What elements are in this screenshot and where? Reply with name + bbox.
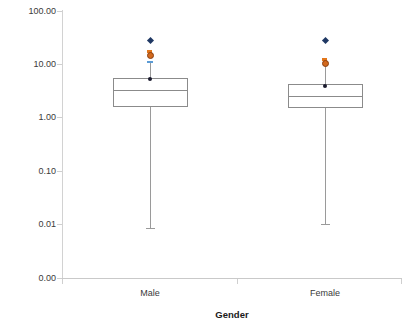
datapoint-p97.5 <box>322 60 329 67</box>
x-axis-title: Gender <box>62 309 402 320</box>
datapoint-p97.5 <box>147 52 154 59</box>
boxplot-chart: µg Cd/kg bodyweight/week 100.0010.001.00… <box>0 0 409 326</box>
datapoint-max-outlier <box>322 37 329 44</box>
median-line <box>288 96 363 97</box>
y-tick-mark <box>57 171 62 172</box>
y-tick-mark <box>57 11 62 12</box>
y-tick-label: 10.00 <box>8 59 56 69</box>
median-line <box>113 90 188 91</box>
x-axis-line <box>62 278 402 279</box>
whisker-upper <box>150 62 151 78</box>
box-male <box>113 78 188 107</box>
y-tick-label: 0.01 <box>8 219 56 229</box>
datapoint-p95 <box>147 61 153 63</box>
x-tick-left <box>62 279 63 284</box>
x-tick-right <box>401 279 402 284</box>
y-axis-line <box>62 10 63 279</box>
y-tick-mark <box>57 117 62 118</box>
y-tick-label: 100.00 <box>8 6 56 16</box>
x-tick-label-male: Male <box>90 288 210 298</box>
y-tick-mark <box>57 64 62 65</box>
y-tick-label: 0.00 <box>8 273 56 283</box>
y-tick-mark <box>57 224 62 225</box>
y-tick-label: 1.00 <box>8 112 56 122</box>
whisker-lower <box>325 108 326 224</box>
whisker-lower <box>150 107 151 227</box>
whisker-cap-lower <box>321 224 330 225</box>
datapoint-p90 <box>323 84 327 88</box>
x-tick-middle <box>237 279 238 284</box>
whisker-cap-lower <box>146 228 155 229</box>
whisker-upper <box>325 65 326 85</box>
datapoint-max-outlier <box>147 37 154 44</box>
y-tick-label: 0.10 <box>8 166 56 176</box>
x-tick-label-female: Female <box>265 288 385 298</box>
